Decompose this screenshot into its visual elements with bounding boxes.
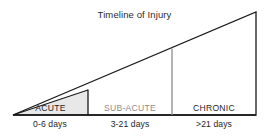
page-title: Timeline of Injury <box>0 10 269 20</box>
phase-label-acute: ACUTE <box>13 104 88 113</box>
period-label-acute: 0-6 days <box>8 120 92 129</box>
timeline-of-injury-figure: Timeline of Injury ACUTE SUB-ACUTE CHRON… <box>0 0 269 136</box>
main-triangle-outline <box>13 12 256 115</box>
period-label-sub-acute: 3-21 days <box>88 120 172 129</box>
timeline-triangle-graphic <box>0 0 269 136</box>
period-label-chronic: >21 days <box>172 120 256 129</box>
phase-label-sub-acute: SUB-ACUTE <box>88 104 172 113</box>
phase-label-chronic: CHRONIC <box>172 104 256 113</box>
